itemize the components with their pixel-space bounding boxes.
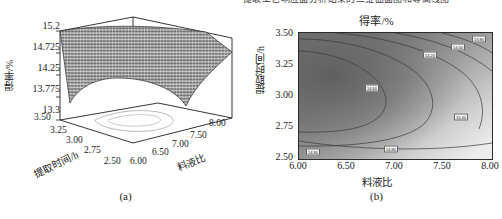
panel-a-x-tick-0: 3.50 — [34, 112, 51, 122]
panel-b-x-axis-label: 料液比 — [251, 174, 502, 189]
panel-a-mesh-surface — [50, 18, 245, 113]
panel-a-y-tick-1: 6.50 — [152, 147, 169, 157]
panel-a-x-tick-4: 2.50 — [104, 156, 121, 166]
panel-b-x-tick-4: 8.00 — [473, 160, 502, 171]
panel-a-y-tick-0: 6.00 — [130, 156, 147, 166]
panel-a-x-tick-1: 3.25 — [50, 125, 67, 135]
panel-b-contour-label-0: 13.80 — [472, 36, 486, 43]
panel-b-x-tick-3: 7.50 — [425, 160, 459, 171]
panel-b-y-tick-1: 3.25 — [259, 58, 293, 69]
panel-a-y-tick-3: 7.50 — [190, 130, 207, 140]
panel-b-x-tick-1: 6.50 — [329, 160, 363, 171]
panel-b-contour-label-3: 14.40 — [454, 114, 468, 121]
response-surface-figure: 提取工艺响应面分析结果的三维曲面图和等高线图 得率/% 15.2 14.725 … — [0, 0, 502, 219]
panel-b-y-axis-label: 提取时间/h — [253, 46, 268, 94]
panel-b-plot-area: 14.60 14.40 14.20 14.00 13.80 14.80 14.8… — [298, 32, 493, 160]
panel-b-contour-label-5: 14.80 — [384, 146, 398, 153]
panel-b-contour-label-1: 14.00 — [451, 44, 465, 51]
panel-a-y-tick-4: 8.00 — [209, 118, 226, 128]
panel-b-contour-plot: 得率/% 提取时间/h 3.50 3.25 3.00 2.75 2.50 — [251, 8, 502, 219]
panel-b-x-tick-0: 6.00 — [281, 160, 315, 171]
panel-a-surface-plot: 得率/% 15.2 14.725 14.25 13.775 13.3 — [0, 8, 251, 219]
panel-b-y-tick-2: 3.00 — [259, 89, 293, 100]
panel-b-y-tick-0: 3.50 — [259, 27, 293, 38]
panel-b-x-tick-2: 7.00 — [377, 160, 411, 171]
panel-a-floor-contour — [95, 111, 173, 132]
panel-b-contour-label-6: 14.80 — [306, 149, 320, 156]
panel-b-contour-canvas — [299, 33, 492, 159]
panel-b-contour-label-4: 14.60 — [365, 85, 379, 92]
panel-a-x-tick-2: 3.00 — [66, 135, 83, 145]
top-strip-text: 提取工艺响应面分析结果的三维曲面图和等高线图 — [243, 0, 493, 4]
panel-b-y-tick-3: 2.75 — [259, 120, 293, 131]
panel-b-contour-label-2: 14.20 — [423, 52, 437, 59]
panel-a-caption: (a) — [0, 190, 251, 202]
panel-a-y-tick-2: 7.00 — [172, 139, 189, 149]
panel-a-x-tick-3: 2.75 — [84, 145, 101, 155]
panel-b-caption: (b) — [251, 190, 502, 202]
panel-b-title: 得率/% — [251, 12, 502, 28]
